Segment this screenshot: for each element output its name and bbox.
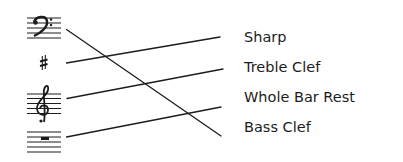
whole-bar-rest-icon xyxy=(41,137,49,140)
treble-clef-icon xyxy=(37,86,48,123)
line-bass-clef-to-bass-clef-label xyxy=(67,30,222,137)
line-rest-to-whole-bar-rest-label xyxy=(67,107,222,137)
label-whole-bar-rest: Whole Bar Rest xyxy=(244,88,355,106)
sharp-icon xyxy=(40,55,48,70)
line-sharp-to-sharp-label xyxy=(67,37,221,63)
label-treble-clef: Treble Clef xyxy=(244,58,320,76)
line-treble-clef-to-treble-clef-label xyxy=(67,69,223,99)
label-sharp: Sharp xyxy=(244,28,286,46)
matching-diagram: Sharp Treble Clef Whole Bar Rest Bass Cl… xyxy=(0,0,403,162)
diagram-graphics xyxy=(0,0,403,162)
label-bass-clef: Bass Clef xyxy=(244,118,311,136)
connection-lines xyxy=(67,30,224,138)
whole-bar-rest-staff xyxy=(27,132,61,152)
